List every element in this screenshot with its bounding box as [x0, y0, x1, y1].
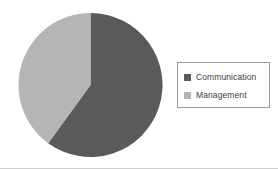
legend-item-communication[interactable]: Communication	[184, 69, 269, 85]
pie-chart-figure: Communication Management	[0, 0, 278, 169]
legend-label-communication: Communication	[196, 72, 256, 82]
legend-label-management: Management	[196, 90, 247, 100]
legend-swatch-communication	[184, 74, 191, 81]
legend-swatch-management	[184, 92, 191, 99]
pie-svg	[18, 12, 163, 158]
figure-bottom-rule	[0, 168, 278, 169]
legend-item-management[interactable]: Management	[184, 87, 269, 103]
pie-slices	[18, 13, 162, 157]
pie-chart-plot-area	[18, 12, 163, 158]
chart-legend: Communication Management	[177, 62, 270, 108]
